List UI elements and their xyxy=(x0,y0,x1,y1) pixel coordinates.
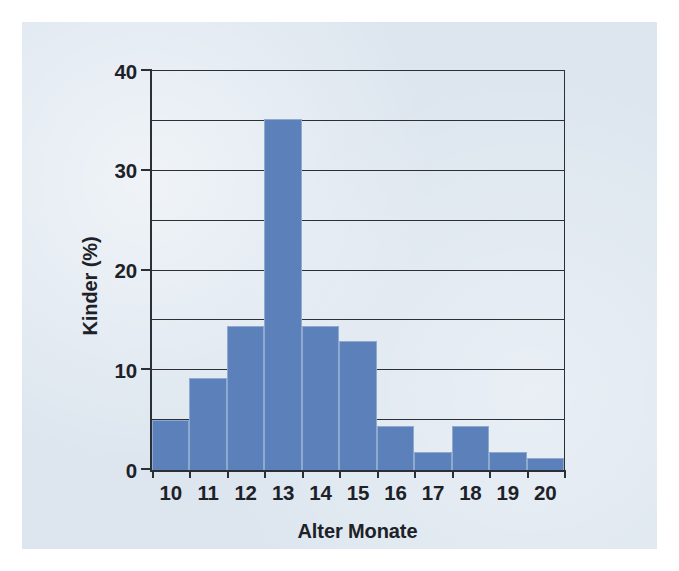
x-axis-tick-label: 19 xyxy=(497,481,519,505)
x-axis-tick xyxy=(302,470,304,478)
bar xyxy=(377,426,414,470)
bar xyxy=(414,452,451,470)
plot-area: 010203040 1011121314151617181920 xyxy=(150,70,565,472)
x-axis-tick-label: 17 xyxy=(422,481,444,505)
y-axis-tick-label: 30 xyxy=(115,159,137,183)
x-axis-tick-label: 11 xyxy=(198,481,219,505)
x-axis-tick-label: 10 xyxy=(160,481,182,505)
x-axis-tick xyxy=(414,470,416,478)
x-axis-tick xyxy=(527,470,529,478)
x-axis-title: Alter Monate xyxy=(150,520,565,543)
x-axis-tick xyxy=(452,470,454,478)
x-axis-tick xyxy=(189,470,191,478)
x-axis-tick xyxy=(264,470,266,478)
x-axis-tick-label: 13 xyxy=(272,481,294,505)
y-axis-tick-label: 40 xyxy=(115,60,137,84)
y-axis-tick xyxy=(141,269,152,271)
bars-layer xyxy=(152,71,564,470)
y-axis-title: Kinder (%) xyxy=(79,236,102,335)
y-axis-tick-label: 20 xyxy=(115,259,137,283)
y-axis-tick xyxy=(141,169,152,171)
bar xyxy=(302,326,339,470)
x-axis-tick xyxy=(227,470,229,478)
bar xyxy=(527,458,564,470)
bar xyxy=(189,378,226,470)
x-axis-tick-label: 15 xyxy=(347,481,369,505)
x-axis-tick xyxy=(377,470,379,478)
y-axis-tick xyxy=(141,69,152,71)
y-axis-tick xyxy=(141,468,152,470)
bar xyxy=(339,341,376,470)
x-axis-tick-label: 18 xyxy=(459,481,481,505)
y-axis-tick-label: 0 xyxy=(126,459,137,483)
figure-root: Kinder (%) 010203040 1011121314151617181… xyxy=(0,0,679,571)
bar xyxy=(264,119,301,470)
y-axis-tick xyxy=(141,368,152,370)
x-axis-tick xyxy=(564,470,566,478)
x-axis-tick-label: 12 xyxy=(234,481,256,505)
bar xyxy=(152,420,189,470)
bar xyxy=(227,326,264,470)
chart-panel: Kinder (%) 010203040 1011121314151617181… xyxy=(22,22,657,549)
x-axis-tick-label: 16 xyxy=(384,481,406,505)
x-axis-tick-label: 20 xyxy=(534,481,556,505)
x-axis-tick xyxy=(339,470,341,478)
y-axis-tick-label: 10 xyxy=(115,359,137,383)
bar xyxy=(489,452,526,470)
bar xyxy=(452,426,489,470)
x-axis-tick xyxy=(152,470,154,478)
x-axis-tick xyxy=(489,470,491,478)
x-axis-tick-label: 14 xyxy=(309,481,331,505)
